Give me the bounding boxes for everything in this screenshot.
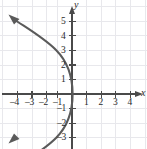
y-tick-label--1: –1 xyxy=(57,104,66,114)
grid-lines xyxy=(0,0,147,149)
y-axis-label: y xyxy=(74,0,78,10)
graph-figure: –4 –3 –2 –1 1 2 3 4 5 4 3 2 1 –1 –2 –3 y… xyxy=(0,0,147,149)
y-tick-label--2: –2 xyxy=(57,119,66,129)
x-tick-label--4: –4 xyxy=(10,98,19,108)
x-tick-label--3: –3 xyxy=(25,98,34,108)
y-tick-label--3: –3 xyxy=(57,133,66,143)
plot-canvas xyxy=(0,0,147,149)
x-tick-label-2: 2 xyxy=(99,98,104,108)
x-tick-label-1: 1 xyxy=(84,98,89,108)
y-tick-label-2: 2 xyxy=(61,61,66,71)
x-axis-label: x xyxy=(141,88,145,98)
y-tick-label-3: 3 xyxy=(61,46,66,56)
y-tick-label-1: 1 xyxy=(61,75,66,85)
axis-arrowheads xyxy=(69,6,143,97)
y-tick-label-5: 5 xyxy=(61,17,66,27)
x-tick-label-3: 3 xyxy=(113,98,118,108)
x-tick-label--2: –2 xyxy=(39,98,48,108)
x-tick-label-4: 4 xyxy=(128,98,133,108)
y-tick-label-4: 4 xyxy=(61,32,66,42)
